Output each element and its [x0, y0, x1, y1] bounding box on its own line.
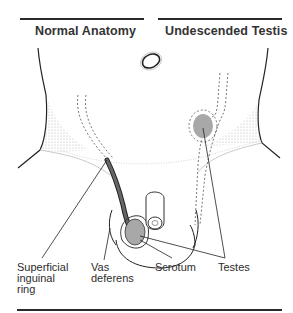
label-vas-deferens: Vas deferens: [91, 262, 134, 284]
undescended-testis: [193, 114, 213, 138]
label-superficial-inguinal-ring: Superficial inguinal ring: [17, 262, 68, 295]
label-testes: Testes: [218, 262, 250, 273]
label-scrotum: Scrotum: [155, 262, 196, 273]
navel-icon: [137, 49, 164, 74]
bottom-rule: [17, 309, 282, 311]
